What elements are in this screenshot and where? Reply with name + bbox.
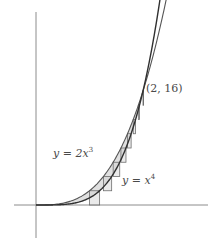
curve-label-upper: y = 2x3 (53, 147, 93, 159)
curve-label-upper-exponent: 3 (89, 146, 93, 154)
figure-canvas: y = 2x3 y = x4 (2, 16) (0, 0, 208, 241)
curve-label-upper-y: y (53, 147, 59, 160)
intersection-point-label: (2, 16) (146, 83, 183, 94)
curve-label-lower-equals: = (132, 174, 141, 187)
curve-label-lower: y = x4 (122, 174, 155, 186)
curve-label-lower-exponent: 4 (151, 173, 155, 181)
plot-svg (0, 0, 208, 241)
axes-group (14, 12, 208, 238)
curve-label-upper-expr: 2x (75, 147, 88, 160)
curve-label-lower-y: y (122, 174, 128, 187)
curve-label-upper-equals: = (63, 147, 72, 160)
